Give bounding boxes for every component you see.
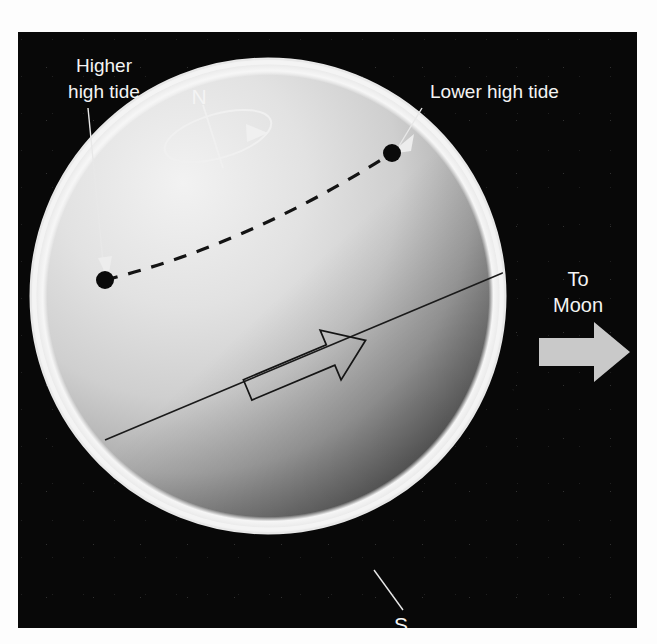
space-background-panel: N Higher high tide Lower high tide S [18,32,637,628]
higher-high-tide-dot [96,271,114,289]
to-moon-arrow-icon [539,322,630,382]
lower-high-tide-dot [383,144,401,162]
south-pole-annotation: S [374,570,408,628]
tide-diagram: N Higher high tide Lower high tide S [18,32,637,628]
to-moon-label-line1: To [567,268,588,290]
higher-high-tide-label-line1: Higher [76,55,133,76]
north-pole-label: N [191,85,206,108]
to-moon-label-line2: Moon [553,294,603,316]
lower-high-tide-label: Lower high tide [430,81,559,102]
figure-root: N Higher high tide Lower high tide S [0,0,657,644]
higher-high-tide-label-line2: high tide [68,81,140,102]
south-pole-leader-line [374,570,403,610]
south-pole-label: S [394,613,408,628]
to-moon-annotation: To Moon [539,268,630,382]
